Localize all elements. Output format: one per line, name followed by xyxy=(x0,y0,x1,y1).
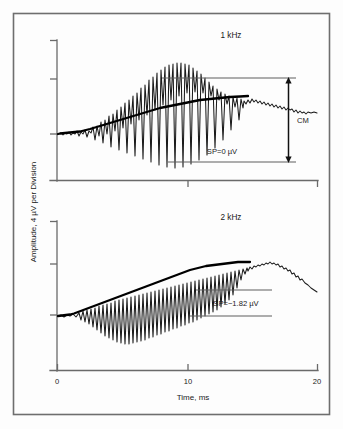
panel2-waveform-trace xyxy=(58,262,317,344)
panel1-cm-label: CM xyxy=(297,116,309,125)
electrocochleography-figure: 1 kHz SP=0 µV CM 2 xyxy=(0,0,343,429)
figure-frame xyxy=(14,14,330,415)
figure-container: 1 kHz SP=0 µV CM 2 xyxy=(0,0,343,429)
panel1-trend-line xyxy=(58,96,248,134)
panel2-title: 2 kHz xyxy=(221,213,242,222)
panel1-sp-label: SP=0 µV xyxy=(207,147,238,156)
panel1-waveform-trace xyxy=(58,63,317,168)
panel2-sp-label: SP=−1.82 µV xyxy=(213,299,259,308)
y-axis-label: Amplitude, 4 µV per Division xyxy=(29,162,38,263)
x-tick-label-0: 0 xyxy=(55,377,59,386)
x-axis-label: Time, ms xyxy=(177,393,210,402)
panel-1khz: 1 kHz SP=0 µV CM xyxy=(50,31,318,187)
panel1-title: 1 kHz xyxy=(221,31,242,40)
panel-2khz: 2 kHz SP=−1.82 µV xyxy=(50,213,318,371)
x-tick-label-10: 10 xyxy=(184,377,192,386)
x-tick-label-20: 20 xyxy=(313,377,321,386)
